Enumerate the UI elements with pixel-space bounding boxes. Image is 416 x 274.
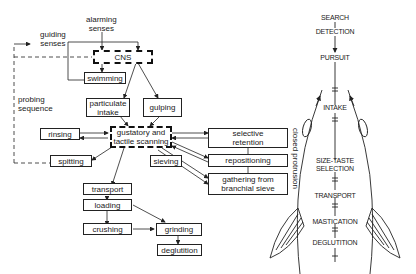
probing-sequence-label: probing sequence — [18, 95, 53, 113]
crushing-box: crushing — [83, 223, 132, 235]
deglutition-box: deglutition — [157, 244, 202, 256]
feeding-behavior-diagram: alarming senses guiding senses probing s… — [0, 0, 416, 274]
rinsing-box: rinsing — [40, 128, 80, 140]
probing-text: probing — [18, 95, 53, 104]
guiding-senses-label: guiding senses — [40, 30, 66, 48]
detection-label: DETECTION — [305, 28, 365, 36]
gulping-box: gulping — [143, 98, 182, 117]
cns-box: CNS — [93, 50, 153, 64]
senses-text: senses — [86, 24, 117, 33]
search-label: SEARCH — [310, 14, 360, 22]
guiding-text: guiding — [40, 30, 66, 39]
selective-retention-box: selectiveretention — [208, 128, 288, 148]
spitting-box: spitting — [50, 155, 92, 167]
particulate-intake-box: particulateintake — [86, 98, 130, 117]
deglutition-stage-label: DEGLUTITION — [300, 239, 370, 247]
alarming-senses-label: alarming senses — [86, 15, 117, 33]
intake-label: INTAKE — [310, 104, 360, 112]
gustatory-tactile-scanning-box: gustatory andtactile scanning — [110, 126, 172, 148]
repositioning-box: repositioning — [208, 154, 288, 167]
size-taste-label: SIZE-TASTE — [305, 157, 365, 165]
alarming-text: alarming — [86, 15, 117, 24]
senses-text: senses — [40, 39, 66, 48]
transport-box: transport — [83, 183, 132, 195]
pursuit-label: PURSUIT — [310, 54, 360, 62]
gathering-branchial-sieve-box: gathering frombranchial sieve — [208, 173, 288, 195]
closed-protrusion-label: closed protrusion — [291, 128, 300, 189]
transport-stage-label: TRANSPORT — [305, 192, 365, 200]
mastication-label: MASTICATION — [300, 218, 370, 226]
sieving-box: sieving — [150, 155, 182, 167]
grinding-box: grinding — [156, 223, 202, 236]
swimming-box: swimming — [84, 72, 126, 84]
loading-box: loading — [83, 199, 132, 211]
sequence-text: sequence — [18, 104, 53, 113]
selection-label: SELECTION — [305, 165, 365, 173]
